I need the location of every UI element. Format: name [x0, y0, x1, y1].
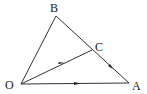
- label-a: A: [132, 79, 141, 93]
- segment-ba: [56, 16, 129, 83]
- segment-ob: [21, 16, 56, 84]
- label-c: C: [95, 40, 103, 54]
- segment-oc: [21, 50, 92, 84]
- label-o: O: [5, 78, 14, 92]
- arrow-oa-icon: [74, 82, 81, 85]
- vector-triangle-diagram: B C O A: [0, 0, 147, 94]
- label-b: B: [50, 1, 58, 15]
